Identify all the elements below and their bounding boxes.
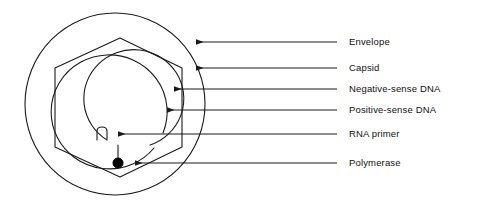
virus-particle-group — [25, 13, 205, 195]
label-envelope: Envelope — [349, 36, 390, 47]
labels-group: Envelope Capsid Negative-sense DNA Posit… — [349, 36, 441, 168]
label-positive-sense-dna: Positive-sense DNA — [349, 104, 437, 115]
label-rna-primer: RNA primer — [349, 128, 400, 139]
virus-structure-diagram: Envelope Capsid Negative-sense DNA Posit… — [0, 0, 500, 209]
negative-sense-dna-strand — [51, 55, 167, 169]
diagram-canvas: Envelope Capsid Negative-sense DNA Posit… — [0, 0, 500, 209]
label-polymerase: Polymerase — [349, 157, 401, 168]
label-capsid: Capsid — [349, 62, 379, 73]
label-negative-sense-dna: Negative-sense DNA — [349, 83, 441, 94]
positive-sense-dna-strand — [84, 50, 184, 145]
polymerase-dot — [113, 158, 123, 168]
